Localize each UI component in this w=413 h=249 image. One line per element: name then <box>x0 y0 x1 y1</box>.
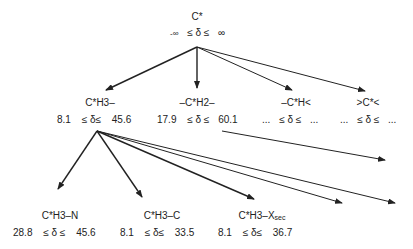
node-ch3c-range: 8.1 ≤ δ≤ 33.5 <box>120 227 194 239</box>
node-c-upper: ... <box>388 114 396 125</box>
edge-root-c <box>197 47 365 91</box>
node-ch3n-range: 28.8 ≤ δ ≤ 45.6 <box>13 227 96 239</box>
node-c-lower: ... <box>340 114 348 125</box>
node-ch-rel: ≤ δ ≤ <box>279 114 301 125</box>
node-ch2-label: –C*H2– <box>179 97 214 109</box>
node-ch3n-upper: 45.6 <box>76 227 95 238</box>
node-ch3-rel: ≤ δ≤ <box>82 114 101 125</box>
node-ch3c-label: C*H3–C <box>144 210 181 222</box>
node-c-range: ... ≤ δ ≤ ... <box>340 114 396 126</box>
node-ch2-rel: ≤ δ ≤ <box>187 114 209 125</box>
node-ch3x-range: 8.1 ≤ δ≤ 36.7 <box>218 227 292 239</box>
root-range: -∞ ≤ δ ≤ ∞ <box>170 27 230 40</box>
edge-ch3-n <box>58 131 97 189</box>
edge-ch3-more1 <box>97 131 342 203</box>
node-ch3n-rel: ≤ δ ≤ <box>43 227 65 238</box>
node-ch3x-label-sub: sec <box>275 214 286 221</box>
node-ch3x-label: C*H3–Xsec <box>238 210 285 224</box>
node-ch2-range: 17.9 ≤ δ ≤ 60.1 <box>157 114 238 126</box>
node-ch3x-lower: 8.1 <box>218 227 232 238</box>
node-ch3n-lower: 28.8 <box>13 227 32 238</box>
node-ch3-upper: 45.6 <box>112 114 131 125</box>
node-ch3-range: 8.1 ≤ δ≤ 45.6 <box>57 114 131 126</box>
node-ch2-upper: 60.1 <box>218 114 237 125</box>
node-ch3c-lower: 8.1 <box>120 227 134 238</box>
node-c-label: >C*< <box>357 97 380 109</box>
node-ch3c-upper: 33.5 <box>175 227 194 238</box>
edge-ch2-next <box>222 131 385 160</box>
node-ch-range: ... ≤ δ ≤ ... <box>262 114 318 126</box>
root-rel: ≤ δ ≤ <box>187 27 209 38</box>
root-label: C* <box>191 11 202 23</box>
root-upper: ∞ <box>218 27 225 38</box>
edge-ch3-more2 <box>97 131 395 203</box>
node-ch3-lower: 8.1 <box>57 114 71 125</box>
node-ch-upper: ... <box>310 114 318 125</box>
node-ch3x-rel: ≤ δ≤ <box>243 227 262 238</box>
edge-root-ch3 <box>106 47 197 90</box>
node-ch3c-rel: ≤ δ≤ <box>145 227 164 238</box>
node-ch-label: –C*H< <box>281 97 311 109</box>
root-lower: -∞ <box>170 29 178 38</box>
node-ch3n-label: C*H3–N <box>42 210 79 222</box>
node-ch3-label: C*H3– <box>85 97 114 109</box>
node-ch-lower: ... <box>262 114 270 125</box>
node-ch3x-upper: 36.7 <box>273 227 292 238</box>
node-c-rel: ≤ δ ≤ <box>357 114 379 125</box>
node-ch2-lower: 17.9 <box>157 114 176 125</box>
node-ch3x-label-main: C*H3–X <box>238 210 274 221</box>
